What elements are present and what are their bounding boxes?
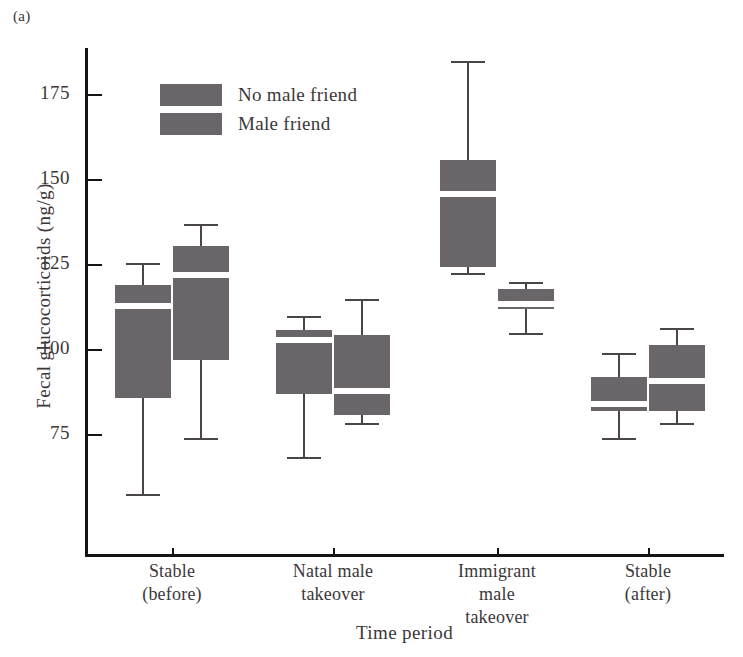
median-line xyxy=(440,191,496,197)
whisker-cap-upper xyxy=(602,353,636,355)
box-plot-chart: 75100125150175 Fecal glucocorticoids (ng… xyxy=(0,0,743,657)
whisker-cap-lower xyxy=(287,457,321,459)
x-axis-category-label: Natal maletakeover xyxy=(258,560,408,606)
box-plot-box xyxy=(440,61,496,275)
x-axis-category-label: Stable(after) xyxy=(573,560,723,606)
box-plot-box xyxy=(334,299,390,425)
legend-label-male-friend: Male friend xyxy=(238,113,330,135)
x-axis-line xyxy=(85,554,724,557)
y-axis-label: Fecal glucocorticoids (ng/g) xyxy=(33,166,55,426)
whisker-cap-upper xyxy=(660,328,694,330)
box-iqr-rect xyxy=(440,160,496,267)
x-axis-tick xyxy=(497,548,499,557)
y-axis-line xyxy=(85,48,88,556)
whisker-cap-lower xyxy=(345,423,379,425)
box-plot-box xyxy=(276,316,332,459)
x-axis-tick xyxy=(648,548,650,557)
y-axis-tick xyxy=(88,264,102,266)
y-axis-tick xyxy=(88,94,102,96)
chart-legend: No male friend Male friend xyxy=(160,84,357,142)
whisker-cap-upper xyxy=(509,282,543,284)
y-axis-tick xyxy=(88,179,102,181)
median-line xyxy=(498,301,554,307)
legend-label-no-male-friend: No male friend xyxy=(238,84,357,106)
whisker-cap-lower xyxy=(451,273,485,275)
box-plot-box xyxy=(115,263,171,496)
whisker-cap-lower xyxy=(184,438,218,440)
x-axis-tick xyxy=(333,548,335,557)
box-plot-box xyxy=(591,353,647,440)
median-line xyxy=(173,272,229,278)
whisker-cap-lower xyxy=(660,423,694,425)
legend-swatch-no-male-friend xyxy=(160,84,222,106)
whisker-cap-lower xyxy=(126,494,160,496)
legend-item: No male friend xyxy=(160,84,357,106)
legend-swatch-male-friend xyxy=(160,113,222,135)
median-line xyxy=(334,388,390,394)
median-line xyxy=(276,337,332,343)
y-axis-tick xyxy=(88,434,102,436)
median-line xyxy=(115,303,171,309)
whisker-cap-lower xyxy=(602,438,636,440)
box-plot-box xyxy=(649,328,705,425)
whisker-cap-upper xyxy=(184,224,218,226)
x-axis-tick xyxy=(172,548,174,557)
box-plot-box xyxy=(173,224,229,440)
box-iqr-rect xyxy=(334,335,390,415)
legend-item: Male friend xyxy=(160,113,357,135)
whisker-cap-upper xyxy=(126,263,160,265)
box-plot-box xyxy=(498,282,554,335)
x-axis-category-label: Immigrantmaletakeover xyxy=(422,560,572,629)
x-axis-label: Time period xyxy=(85,622,724,644)
whisker-cap-upper xyxy=(287,316,321,318)
x-axis-category-label: Stable(before) xyxy=(97,560,247,606)
median-line xyxy=(649,378,705,384)
whisker-cap-upper xyxy=(451,61,485,63)
y-axis-tick-label: 175 xyxy=(24,82,70,104)
y-axis-tick xyxy=(88,349,102,351)
whisker-cap-lower xyxy=(509,333,543,335)
box-iqr-rect xyxy=(173,246,229,360)
whisker-cap-upper xyxy=(345,299,379,301)
median-line xyxy=(591,401,647,407)
